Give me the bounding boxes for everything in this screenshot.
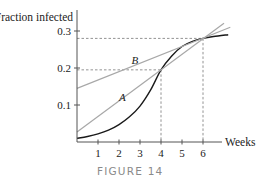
y-tick-label: 0.1	[57, 99, 71, 111]
x-tick-label: 3	[137, 147, 143, 159]
series-line-infection-curve	[77, 35, 228, 139]
reference-lines	[77, 38, 203, 142]
x-tick-label: 2	[116, 147, 122, 159]
series-lines	[77, 23, 230, 138]
axes	[77, 10, 222, 142]
chart: 1234560.10.20.3 Fraction infected Weeks …	[0, 0, 264, 182]
x-tick-label: 1	[95, 147, 101, 159]
line-label-b: B	[132, 54, 139, 66]
x-axis-label: Weeks	[225, 136, 256, 148]
y-tick-label: 0.2	[57, 62, 71, 74]
line-label-a: A	[118, 91, 126, 103]
series-line-b	[77, 27, 230, 88]
x-tick-label: 6	[200, 147, 206, 159]
figure-caption: FIGURE 14	[97, 165, 163, 177]
x-tick-label: 4	[158, 147, 164, 159]
y-tick-label: 0.3	[57, 25, 71, 37]
series-line-a	[77, 23, 224, 132]
line-labels: AB	[118, 54, 139, 103]
x-tick-label: 5	[179, 147, 185, 159]
y-axis-label: Fraction infected	[0, 11, 73, 23]
